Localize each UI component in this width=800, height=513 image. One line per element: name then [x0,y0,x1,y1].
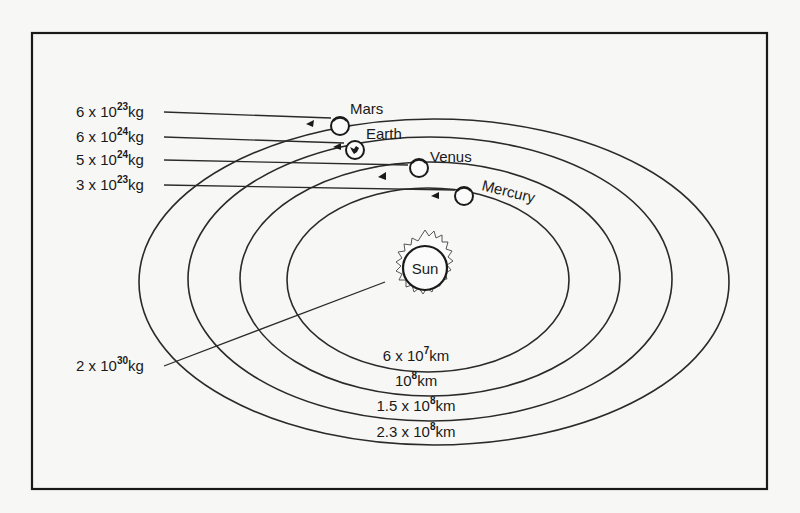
mass-label-venus: 5 x 1024kg [76,149,144,168]
sun: Sun [396,230,453,294]
planet-earth-label: Earth [366,125,402,142]
planet-venus-label: Venus [430,148,472,165]
solar-system-diagram: Sun Mars Earth Venus Mercury 6 x 1023kg … [0,0,800,513]
arrow-icon [378,172,386,180]
mass-label-earth: 6 x 1024kg [76,126,144,145]
planet-venus: Venus [410,148,472,177]
orbit-label-earth: 1.5 x 108km [377,395,456,414]
sun-label: Sun [412,260,439,277]
orbit-label-mars: 2.3 x 108km [377,421,456,440]
mass-labels: 6 x 1023kg 6 x 1024kg 5 x 1024kg 3 x 102… [76,101,144,374]
planet-mercury-label: Mercury [480,176,537,206]
planet-mars-label: Mars [350,100,383,117]
arrow-icon [306,120,314,127]
leader-lines [164,112,455,366]
orbit-label-mercury: 6 x 107km [383,345,449,364]
planet-mercury: Mercury [455,176,537,206]
planet-earth: Earth [346,125,402,159]
arrow-icon [431,192,439,199]
mass-label-sun: 2 x 1030kg [76,355,144,374]
orbit-label-venus: 108km [395,370,437,389]
mass-label-mercury: 3 x 1023kg [76,174,144,193]
mass-label-mars: 6 x 1023kg [76,101,144,120]
